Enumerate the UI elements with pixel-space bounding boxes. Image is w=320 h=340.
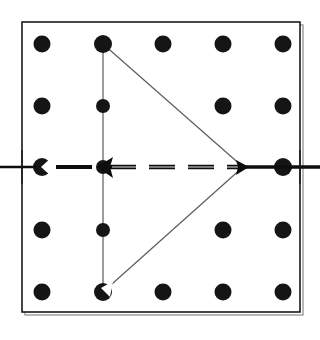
grid-dot bbox=[215, 222, 232, 239]
grid-dot bbox=[275, 222, 292, 239]
grid-dot bbox=[34, 36, 51, 53]
grid-dot bbox=[34, 222, 51, 239]
grid-dot-clipped bbox=[96, 99, 110, 113]
geometry-figure bbox=[0, 0, 320, 340]
grid-dot bbox=[275, 36, 292, 53]
grid-dot bbox=[215, 284, 232, 301]
grid-dot-clipped bbox=[96, 223, 110, 237]
grid-dot bbox=[34, 98, 51, 115]
grid-dot bbox=[155, 36, 172, 53]
grid-dot bbox=[275, 284, 292, 301]
grid-dot bbox=[215, 98, 232, 115]
grid-dot bbox=[155, 284, 172, 301]
figure-container: Triangle inscribed on a 5x5 dot grid wit… bbox=[0, 0, 320, 340]
grid-dot-triangle-apex-top bbox=[94, 35, 112, 53]
grid-dot bbox=[34, 284, 51, 301]
grid-dot bbox=[215, 36, 232, 53]
grid-dot bbox=[275, 98, 292, 115]
